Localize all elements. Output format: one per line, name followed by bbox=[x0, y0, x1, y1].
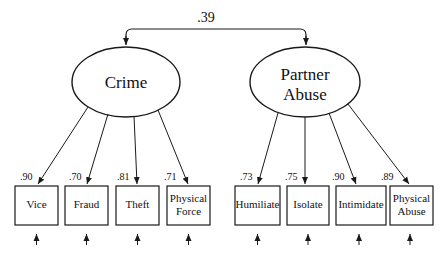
indicator-label-line2: Abuse bbox=[397, 205, 425, 217]
latent-partner-abuse-label-line1: Partner bbox=[280, 65, 329, 84]
loading-value: .71 bbox=[164, 171, 177, 182]
indicator-label-line2: Force bbox=[176, 205, 201, 217]
indicator-label: Fraud bbox=[74, 198, 100, 210]
indicator-label: Vice bbox=[26, 198, 46, 210]
correlation-arrow: .39 bbox=[126, 10, 306, 45]
indicator-label: Theft bbox=[126, 198, 150, 210]
indicator-label-line1: Physical bbox=[170, 192, 207, 204]
loading-value: .73 bbox=[240, 171, 253, 182]
indicator-intimidate: Intimidate .90 bbox=[332, 171, 386, 245]
latent-partner-abuse-label-line2: Abuse bbox=[283, 85, 326, 104]
latent-crime-label: Crime bbox=[105, 73, 148, 92]
indicator-isolate: Isolate .75 bbox=[285, 171, 329, 245]
loading-value: .89 bbox=[381, 171, 394, 182]
indicator-theft: Theft .81 bbox=[116, 171, 159, 245]
indicator-label: Humiliate bbox=[236, 198, 280, 210]
indicator-label: Intimidate bbox=[338, 198, 383, 210]
loading-value: .90 bbox=[20, 171, 33, 182]
indicator-label: Isolate bbox=[293, 198, 322, 210]
loading-value: .75 bbox=[285, 171, 298, 182]
loading-value: .70 bbox=[69, 171, 82, 182]
indicator-vice: Vice .90 bbox=[15, 171, 58, 245]
correlation-value: .39 bbox=[197, 10, 215, 25]
indicator-humiliate: Humiliate .73 bbox=[235, 171, 280, 245]
loading-value: .90 bbox=[332, 171, 345, 182]
loading-value: .81 bbox=[117, 171, 130, 182]
indicator-fraud: Fraud .70 bbox=[65, 171, 108, 245]
latent-partner-abuse: Partner Abuse bbox=[250, 47, 360, 117]
latent-crime: Crime bbox=[72, 47, 180, 117]
sem-diagram: .39 Crime Partner Abuse Vice .90 Fraud .… bbox=[0, 0, 446, 255]
indicator-label-line1: Physical bbox=[393, 192, 430, 204]
